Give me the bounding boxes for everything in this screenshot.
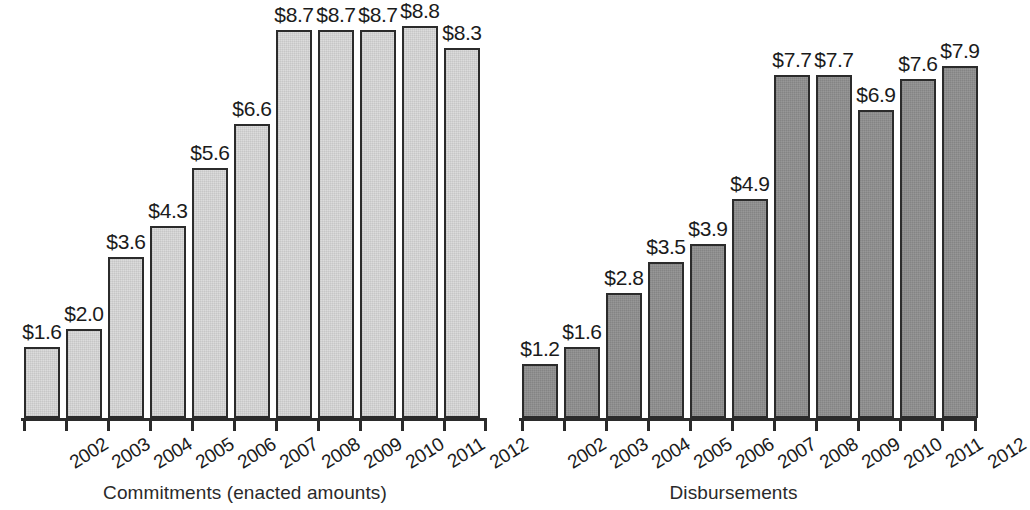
x-axis-end-tick: [484, 418, 487, 431]
x-tick-label-2008: 2008: [318, 434, 363, 472]
bar-2007: [234, 124, 270, 418]
x-tick-2005: [647, 418, 650, 431]
bar-2008: [276, 30, 312, 418]
x-tick-2004: [107, 418, 110, 431]
x-tick-label-2005: 2005: [690, 434, 735, 472]
x-tick-2003: [65, 418, 68, 431]
x-tick-2005: [149, 418, 152, 431]
x-tick-label-2011: 2011: [444, 434, 488, 471]
x-tick-label-2005: 2005: [192, 434, 237, 472]
bar-2010: [360, 30, 396, 418]
bar-value-label-2006: $3.9: [680, 218, 736, 239]
x-tick-2007: [233, 418, 236, 431]
x-tick-label-2007: 2007: [276, 434, 321, 472]
x-tick-label-2002: 2002: [564, 434, 609, 472]
bar-value-label-2003: $2.0: [56, 303, 112, 324]
x-tick-2010: [359, 418, 362, 431]
bar-2008: [774, 75, 810, 418]
bar-2005: [150, 226, 186, 418]
chart-caption-disbursements: Disbursements: [490, 482, 977, 504]
x-tick-2009: [815, 418, 818, 431]
x-tick-2011: [401, 418, 404, 431]
x-tick-label-2004: 2004: [150, 434, 195, 472]
bar-value-label-2010: $6.9: [848, 84, 904, 105]
bar-value-label-2003: $1.6: [554, 321, 610, 342]
bar-value-label-2012: $8.3: [434, 22, 490, 43]
bar-2003: [564, 347, 600, 418]
x-tick-label-2006: 2006: [234, 434, 279, 472]
chart-panel-commitments: $1.6$2.0$3.6$4.3$5.6$6.6$8.7$8.7$8.7$8.8…: [0, 0, 490, 510]
x-tick-label-2010: 2010: [900, 434, 945, 472]
bar-value-label-2012: $7.9: [932, 40, 988, 61]
chart-panel-disbursements: $1.2$1.6$2.8$3.5$3.9$4.9$7.7$7.7$6.9$7.6…: [490, 0, 977, 510]
bar-2002: [522, 364, 558, 418]
bar-2010: [858, 110, 894, 418]
bar-2004: [606, 293, 642, 418]
x-tick-2008: [275, 418, 278, 431]
x-tick-2006: [191, 418, 194, 431]
bar-value-label-2006: $5.6: [182, 142, 238, 163]
bar-value-label-2007: $4.9: [722, 173, 778, 194]
x-tick-2012: [443, 418, 446, 431]
x-tick-2010: [857, 418, 860, 431]
x-tick-label-2010: 2010: [402, 434, 447, 472]
bar-value-label-2002: $1.6: [14, 321, 70, 342]
plot-area-disbursements: $1.2$1.6$2.8$3.5$3.9$4.9$7.7$7.7$6.9$7.6…: [490, 0, 977, 418]
x-tick-2002: [521, 418, 524, 431]
bar-value-label-2007: $6.6: [224, 98, 280, 119]
bar-value-label-2009: $7.7: [806, 49, 862, 70]
x-tick-label-2009: 2009: [360, 434, 405, 472]
bar-2002: [24, 347, 60, 418]
chart-caption-commitments: Commitments (enacted amounts): [0, 482, 490, 504]
x-tick-2009: [317, 418, 320, 431]
bar-2006: [192, 168, 228, 418]
bar-value-label-2004: $2.8: [596, 267, 652, 288]
x-tick-2008: [773, 418, 776, 431]
x-tick-label-2003: 2003: [606, 434, 651, 472]
x-tick-label-2002: 2002: [66, 434, 111, 472]
bar-value-label-2004: $3.6: [98, 231, 154, 252]
x-tick-2003: [563, 418, 566, 431]
x-axis-line-disbursements: [519, 418, 977, 421]
x-tick-2011: [899, 418, 902, 431]
x-tick-label-2009: 2009: [858, 434, 903, 472]
x-tick-label-2012: 2012: [984, 434, 1029, 472]
x-tick-2012: [941, 418, 944, 431]
x-tick-label-2007: 2007: [774, 434, 819, 472]
bar-2012: [942, 66, 978, 418]
x-tick-2002: [23, 418, 26, 431]
bar-2007: [732, 199, 768, 418]
x-tick-label-2008: 2008: [816, 434, 861, 472]
x-tick-label-2004: 2004: [648, 434, 693, 472]
bar-2011: [402, 26, 438, 418]
bar-value-label-2005: $4.3: [140, 200, 196, 221]
bar-2009: [318, 30, 354, 418]
bar-value-label-2005: $3.5: [638, 236, 694, 257]
bar-2003: [66, 329, 102, 418]
bar-2006: [690, 244, 726, 418]
x-tick-2006: [689, 418, 692, 431]
x-tick-2007: [731, 418, 734, 431]
bar-2012: [444, 48, 480, 418]
bar-2009: [816, 75, 852, 418]
bar-2011: [900, 79, 936, 418]
bar-2004: [108, 257, 144, 418]
bar-2005: [648, 262, 684, 418]
x-tick-label-2003: 2003: [108, 434, 153, 472]
bar-value-label-2011: $8.8: [392, 0, 448, 21]
x-axis-end-tick: [974, 418, 977, 431]
plot-area-commitments: $1.6$2.0$3.6$4.3$5.6$6.6$8.7$8.7$8.7$8.8…: [0, 0, 490, 418]
x-tick-2004: [605, 418, 608, 431]
x-tick-label-2006: 2006: [732, 434, 777, 472]
x-tick-label-2011: 2011: [942, 434, 986, 471]
x-axis-line-commitments: [21, 418, 487, 421]
